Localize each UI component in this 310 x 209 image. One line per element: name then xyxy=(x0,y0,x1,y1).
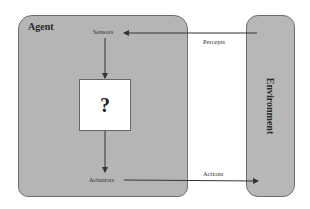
arrows-layer xyxy=(0,0,310,209)
actions-arrow xyxy=(124,180,258,181)
